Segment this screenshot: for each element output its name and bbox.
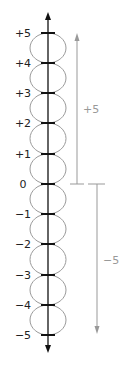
tick-labels: +5+4+3+2+10−1−2−3−4−5 <box>15 27 31 342</box>
positive-five-arrow: +5 <box>70 33 99 184</box>
negative-arrow-label: −5 <box>103 254 119 267</box>
tick-label: +4 <box>15 57 31 70</box>
tick-label: −3 <box>15 269 31 282</box>
tick-label: −5 <box>15 329 31 342</box>
tick-label: −4 <box>15 299 31 312</box>
number-line-diagram: +5+4+3+2+10−1−2−3−4−5 +5 −5 <box>0 0 122 365</box>
tick-label: +5 <box>15 27 31 40</box>
positive-arrow-label: +5 <box>83 103 99 116</box>
tick-label: −2 <box>15 238 31 251</box>
tick-label: +1 <box>15 148 31 161</box>
arrow-down-icon <box>45 345 51 353</box>
arrow-up-icon <box>75 33 80 41</box>
tick-label: 0 <box>20 178 27 191</box>
negative-five-arrow: −5 <box>88 184 119 334</box>
tick-label: +2 <box>15 117 31 130</box>
tick-label: −1 <box>15 208 31 221</box>
arrow-up-icon <box>45 12 51 20</box>
arrow-down-icon <box>95 326 100 334</box>
tick-label: +3 <box>15 87 31 100</box>
